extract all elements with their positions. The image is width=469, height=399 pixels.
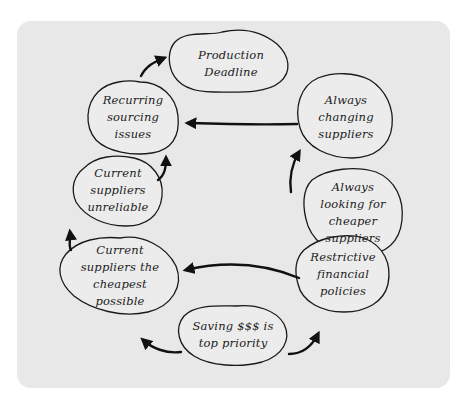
node-label: Current suppliers unreliable (87, 165, 148, 216)
node-saving-top-priority: Saving $$$ is top priority (176, 306, 290, 364)
node-label: Recurring sourcing issues (103, 92, 164, 143)
node-current-unreliable: Current suppliers unreliable (72, 154, 164, 226)
arrow-restrictive-to-cheapest (186, 265, 299, 278)
node-label: Restrictive financial policies (310, 249, 375, 300)
arrow-changing-to-recurring (188, 123, 297, 124)
node-label: Current suppliers the cheapest possible (81, 242, 160, 310)
node-always-changing-suppliers: Always changing suppliers (298, 76, 394, 158)
node-label: Production Deadline (198, 47, 264, 81)
node-production-deadline: Production Deadline (170, 36, 292, 92)
arrow-recurring-to-deadline (141, 58, 164, 76)
arrow-saving-to-restrictive (289, 334, 318, 354)
arrow-looking-to-changing (290, 152, 299, 192)
node-label: Always changing suppliers (318, 92, 374, 143)
node-current-cheapest: Current suppliers the cheapest possible (58, 236, 182, 316)
node-recurring-sourcing-issues: Recurring sourcing issues (86, 80, 180, 154)
node-restrictive-financial-policies: Restrictive financial policies (296, 236, 390, 312)
node-label: Saving $$$ is top priority (192, 318, 273, 352)
